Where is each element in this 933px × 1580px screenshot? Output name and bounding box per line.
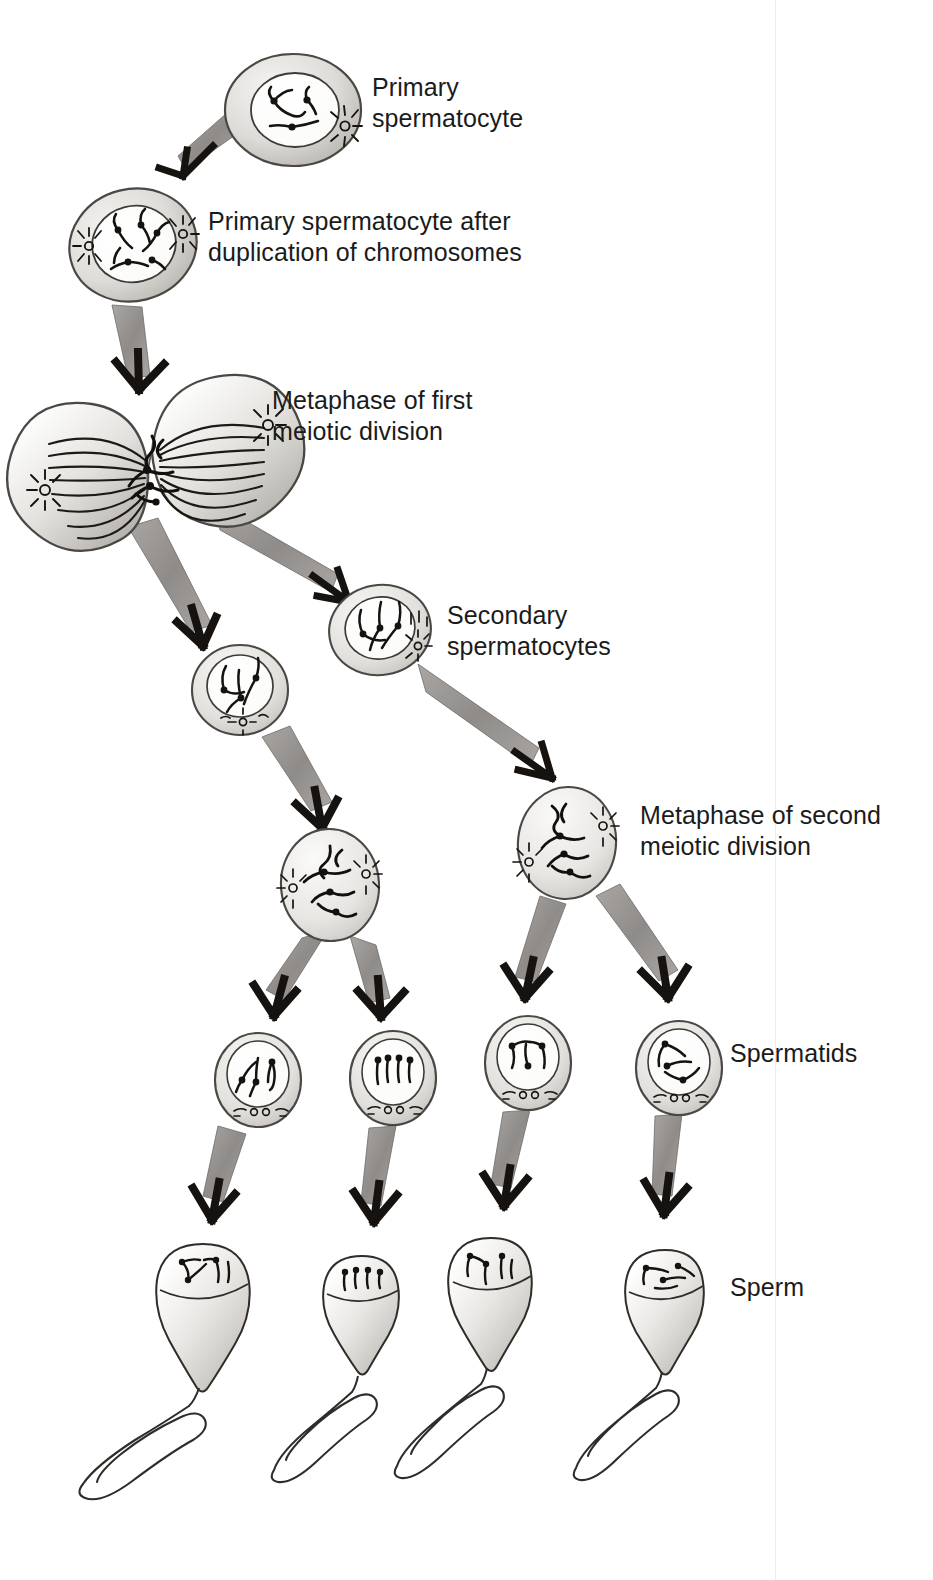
label-primary-spermatocyte: Primary spermatocyte [372, 72, 523, 134]
sperm-midpiece [656, 1372, 662, 1388]
label-secondary-spermatocytes: Secondary spermatocytes [447, 600, 611, 662]
arrow-13 [484, 1110, 530, 1206]
sperm-tail [272, 1392, 377, 1482]
arrow-6 [418, 664, 552, 778]
label-primary-spermatocyte-duplicated: Primary spermatocyte after duplication o… [208, 206, 522, 268]
arrow-3 [128, 518, 216, 646]
scan-edge-line [775, 0, 776, 1580]
spermatogenesis-diagram: Primary spermatocyte Primary spermatocyt… [0, 0, 933, 1580]
sperm-tail [79, 1406, 205, 1499]
stage-spermatid-4 [636, 1021, 722, 1115]
sperm-tail [574, 1388, 679, 1480]
stage-spermatid-3 [485, 1016, 571, 1110]
stage-primary-spermatocyte-duplicated [57, 175, 208, 315]
sperm-head [323, 1256, 399, 1375]
arrow-12 [354, 1126, 397, 1222]
arrow-14 [645, 1114, 687, 1214]
stage-sperm-4 [574, 1250, 704, 1480]
label-metaphase-first: Metaphase of first meiotic division [272, 385, 473, 447]
stage-secondary-spermatocyte-left [192, 645, 288, 735]
arrow-11 [193, 1126, 246, 1220]
stage-metaphase-second-left [277, 826, 383, 945]
sperm-tail [395, 1384, 504, 1478]
arrow-2 [112, 305, 164, 390]
stage-spermatid-2 [350, 1031, 436, 1125]
sperm-midpiece [189, 1388, 199, 1406]
sperm-head [448, 1238, 532, 1371]
arrow-7 [254, 930, 328, 1016]
stage-primary-spermatocyte [225, 54, 362, 166]
stage-sperm-2 [272, 1256, 399, 1482]
stage-metaphase-second-right [512, 782, 621, 904]
arrow-8 [350, 936, 404, 1017]
arrow-5 [262, 726, 337, 828]
stage-sperm-3 [395, 1238, 532, 1478]
lobe-left [7, 403, 148, 551]
sperm-midpiece [352, 1376, 358, 1392]
label-sperm: Sperm [730, 1272, 804, 1303]
sperm-midpiece [481, 1368, 487, 1384]
arrow-10 [596, 884, 687, 998]
label-spermatids: Spermatids [730, 1038, 857, 1069]
stage-sperm-1 [79, 1244, 249, 1499]
sperm-head [625, 1250, 704, 1375]
stage-spermatid-1 [215, 1033, 301, 1127]
arrow-9 [505, 896, 566, 998]
label-metaphase-second: Metaphase of second meiotic division [640, 800, 881, 862]
